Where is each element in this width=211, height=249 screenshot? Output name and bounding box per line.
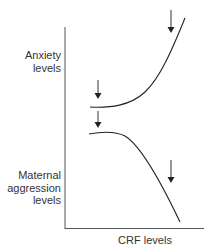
- y-label-aggression-line2: aggression: [7, 182, 61, 195]
- arrow-aggression-high: [168, 160, 175, 183]
- y-label-anxiety-line1: Anxiety: [25, 49, 61, 62]
- y-label-anxiety: Anxiety levels: [25, 49, 61, 74]
- y-label-aggression-line1: Maternal: [7, 169, 61, 182]
- diagram-canvas: [0, 0, 211, 249]
- y-label-anxiety-line2: levels: [25, 62, 61, 75]
- arrow-anxiety-low: [95, 80, 102, 99]
- arrow-anxiety-high: [168, 10, 175, 33]
- aggression-curve: [89, 132, 180, 222]
- y-label-aggression: Maternal aggression levels: [7, 169, 61, 207]
- x-axis-label: CRF levels: [100, 234, 190, 246]
- y-label-aggression-line3: levels: [7, 194, 61, 207]
- arrow-aggression-low: [95, 111, 102, 128]
